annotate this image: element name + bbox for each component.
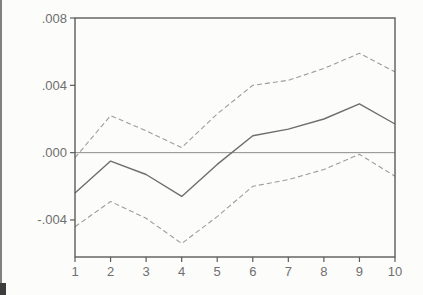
x-tick-label: 10 <box>388 264 402 279</box>
x-tick-label: 5 <box>214 264 221 279</box>
x-tick-label: 2 <box>107 264 114 279</box>
x-tick-label: 7 <box>285 264 292 279</box>
response-line <box>75 104 395 197</box>
scan-artifact-bottom-left-corner <box>0 283 6 295</box>
x-tick-label: 1 <box>71 264 78 279</box>
impulse-response-chart: .008.004.000-.00412345678910 <box>0 0 423 295</box>
x-tick-label: 3 <box>142 264 149 279</box>
plot-frame <box>75 18 395 257</box>
scan-artifact-left-edge <box>0 0 2 295</box>
y-tick-label: .008 <box>42 11 67 26</box>
scanned-chart-page: .008.004.000-.00412345678910 <box>0 0 423 295</box>
y-tick-label: .004 <box>42 78 67 93</box>
y-tick-label: -.004 <box>37 212 67 227</box>
x-tick-label: 9 <box>356 264 363 279</box>
x-tick-label: 8 <box>320 264 327 279</box>
y-tick-label: .000 <box>42 145 67 160</box>
lower-band-line <box>75 154 395 243</box>
x-tick-label: 4 <box>178 264 185 279</box>
x-tick-label: 6 <box>249 264 256 279</box>
upper-band-line <box>75 53 395 157</box>
